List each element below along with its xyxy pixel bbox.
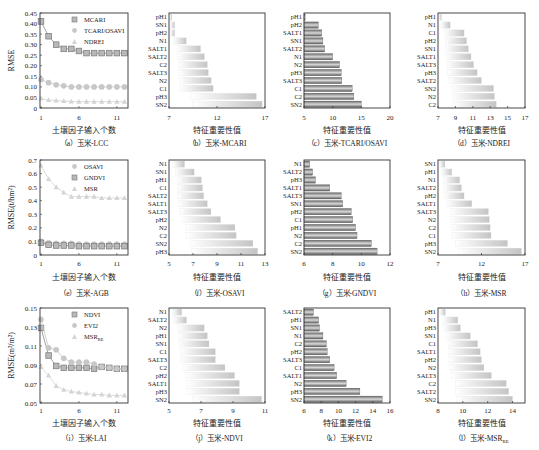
y-tick-label: 0.45 [25, 10, 38, 18]
category-label: N2 [159, 224, 167, 231]
category-label: SN1 [155, 21, 167, 28]
category-label: SN2 [290, 396, 302, 403]
bar-SALT1 [304, 372, 337, 378]
bar-pH2 [304, 22, 318, 28]
y-tick-label: 0.20 [25, 62, 38, 70]
category-label: N1 [159, 160, 167, 167]
bar-SALT1 [449, 349, 481, 355]
x-tick-label: 6 [77, 260, 81, 268]
y-tick-label: 0.05 [25, 400, 38, 408]
data-point [53, 243, 59, 249]
category-label: pH1 [425, 168, 436, 175]
x-tick-label: 5 [167, 407, 171, 415]
category-label: N2 [159, 324, 167, 331]
category-label: pH1 [156, 332, 167, 339]
x-axis-label: 特征重要性值 [193, 272, 241, 282]
x-tick-label: 12 [484, 407, 492, 415]
category-label: C2 [159, 364, 167, 371]
panel-caption: （g）玉米-GNDVI [318, 288, 377, 298]
bar-N1 [443, 317, 458, 323]
bar-pH2 [445, 193, 465, 199]
category-label: C2 [159, 232, 167, 239]
legend-marker [72, 164, 77, 169]
data-point [38, 96, 43, 101]
bar-SALT3 [304, 193, 341, 199]
bar-C2 [453, 101, 497, 107]
bar-SALT3 [451, 372, 491, 378]
bar-SALT1 [304, 185, 330, 191]
x-tick-label: 12 [352, 407, 360, 415]
category-label: C1 [294, 216, 302, 223]
bar-C1 [177, 185, 202, 191]
legend-label: MCARI [84, 16, 105, 23]
panel-l: pH1N1pH3SN1C1SALT1pH2N2SALT3C2SALT2SN281… [417, 308, 525, 444]
bar-SN1 [170, 22, 174, 28]
panel-b: pH1SN1pH2N1SALT1SALT2C2SALT3N2C1pH3SN271… [148, 13, 269, 148]
y-tick-label: 0.30 [25, 41, 38, 49]
category-label: SALT3 [417, 372, 436, 379]
data-point [69, 84, 74, 89]
category-label: N1 [294, 332, 302, 339]
bar-C2 [183, 364, 225, 370]
category-label: N1 [159, 37, 167, 44]
x-tick-label: 7 [167, 114, 171, 122]
panel-h: SN1pH1N1SALT2pH2SALT1SALT3N2C2C1pH3SN271… [417, 160, 529, 298]
legend-label: NDVI [84, 311, 100, 318]
y-tick-label: 0.07 [25, 381, 38, 389]
data-point [92, 84, 97, 89]
bar-SALT2 [178, 193, 204, 199]
category-label: pH3 [425, 324, 436, 331]
x-tick-label: 10 [329, 114, 337, 122]
category-label: SALT2 [148, 192, 167, 199]
category-label: SN1 [290, 200, 302, 207]
category-label: C1 [428, 232, 436, 239]
y-tick-label: 0.05 [25, 94, 38, 102]
category-label: SALT3 [283, 77, 302, 84]
category-label: C2 [428, 101, 436, 108]
panel-j: N1SALT2N2pH1SN1C1SALT3C2pH2SALT1pH3SN257… [148, 308, 269, 443]
category-label: SALT2 [417, 184, 436, 191]
bar-SN2 [452, 85, 494, 91]
x-tick-label: 1 [39, 260, 43, 268]
bar-pH2 [445, 38, 467, 44]
bar-SALT2 [449, 77, 482, 83]
y-tick-label: 0.11 [25, 343, 37, 351]
data-point [76, 84, 81, 89]
series-line-MSR [41, 165, 124, 198]
bar-C2 [179, 62, 208, 68]
x-tick-label: 5 [302, 114, 306, 122]
x-tick-label: 16 [387, 407, 395, 415]
bar-SALT1 [446, 201, 471, 207]
bar-SALT1 [179, 201, 208, 207]
y-tick-label: 0.25 [25, 52, 38, 60]
data-point [46, 353, 52, 359]
panel-caption: （j）玉米-NDVI [191, 433, 243, 443]
category-label: C2 [294, 340, 302, 347]
legend-marker [72, 17, 77, 22]
category-label: C1 [428, 340, 436, 347]
data-point [61, 46, 67, 52]
category-label: N2 [294, 232, 302, 239]
bar-N2 [180, 77, 212, 83]
category-label: pH2 [425, 356, 436, 363]
panel-g: N1SALT2pH3SALT1SALT3SN1pH2C1pH1N2C2SN268… [283, 160, 394, 298]
bar-pH3 [191, 93, 257, 99]
category-label: SN2 [290, 101, 302, 108]
legend-marker [72, 39, 77, 44]
category-label: C2 [294, 240, 302, 247]
bar-SN2 [192, 396, 262, 402]
category-label: SN2 [424, 396, 436, 403]
category-label: C2 [428, 224, 436, 231]
bar-pH2 [304, 209, 351, 215]
panel-caption: （d）玉米-NDREI [453, 138, 511, 148]
panel-caption: （l）玉米-MSRRE [454, 433, 509, 444]
category-label: C2 [159, 61, 167, 68]
category-label: SALT1 [417, 200, 436, 207]
category-label: SALT2 [417, 77, 436, 84]
data-point [114, 243, 120, 249]
bar-C2 [451, 224, 490, 230]
caption-sub: RE [503, 439, 509, 444]
data-point [61, 365, 67, 371]
legend-label: NDREI [84, 38, 104, 45]
bar-C2 [304, 93, 354, 99]
